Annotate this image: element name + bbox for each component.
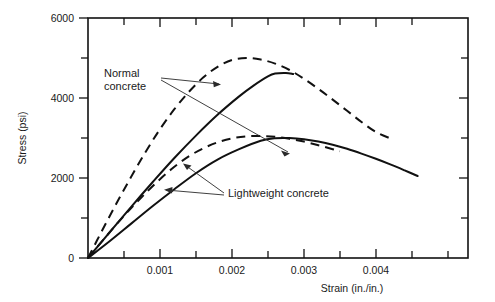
- stress-strain-chart: 0 2000 4000 6000 Stress (psi): [0, 0, 495, 302]
- annotation-normal-line2: concrete: [104, 80, 146, 92]
- x-tick-label-0.001: 0.001: [147, 264, 173, 276]
- annotation-lightweight-label: Lightweight concrete: [228, 187, 329, 199]
- y-tick-label-2000: 2000: [51, 172, 75, 184]
- x-tick-label-0.003: 0.003: [291, 264, 317, 276]
- x-axis-label: Strain (in./in.): [321, 282, 383, 294]
- y-tick-label-6000: 6000: [51, 12, 75, 24]
- y-axis-label: Stress (psi): [16, 111, 28, 164]
- chart-background: [0, 0, 495, 302]
- annotation-normal-line1: Normal: [104, 67, 139, 79]
- x-tick-label-0.004: 0.004: [363, 264, 389, 276]
- y-tick-label-0: 0: [68, 252, 74, 264]
- x-tick-label-0.002: 0.002: [219, 264, 245, 276]
- y-tick-label-4000: 4000: [51, 92, 75, 104]
